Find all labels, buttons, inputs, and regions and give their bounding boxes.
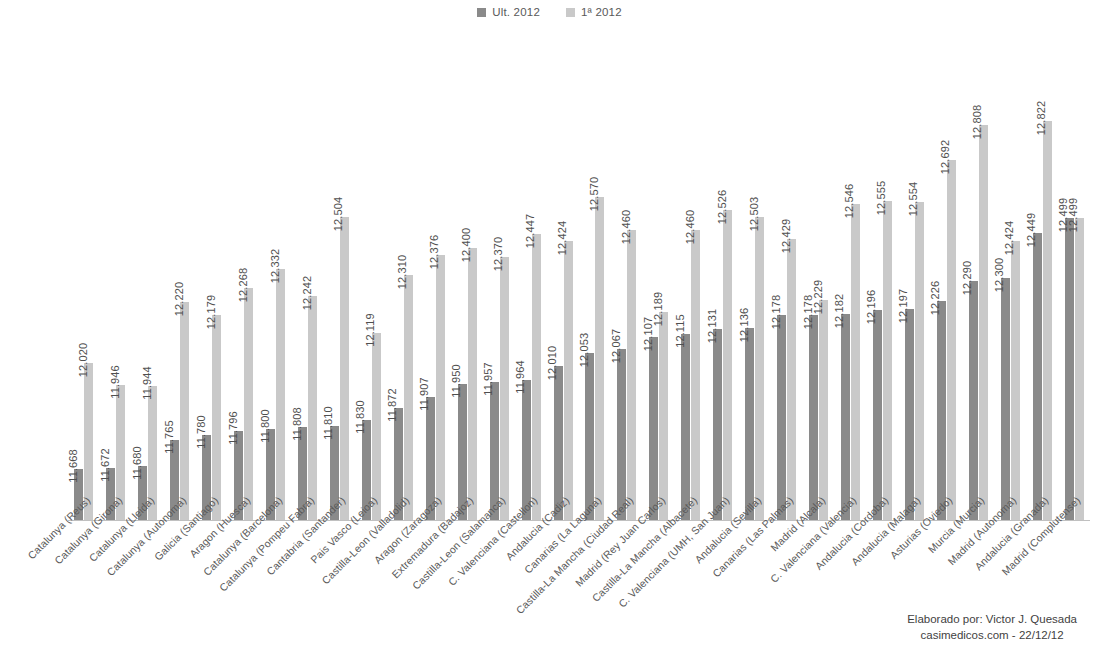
bar[interactable]: 12.808 [979, 125, 988, 520]
bar[interactable]: 12.310 [404, 275, 413, 520]
bar[interactable]: 12.229 [819, 300, 828, 520]
bar-value-label: 12.460 [620, 210, 632, 244]
bar-group: 12.17812.229 [803, 34, 835, 520]
bar-value-label: 12.429 [780, 219, 792, 253]
bar-group: 11.79612.268 [228, 34, 260, 520]
bar[interactable]: 12.370 [500, 257, 509, 520]
bar[interactable]: 12.555 [883, 201, 892, 520]
bar-value-label: 11.765 [163, 420, 175, 453]
bar-value-label: 12.189 [652, 292, 664, 326]
legend-swatch-primera-2012 [566, 8, 575, 17]
bar-group: 12.17812.429 [771, 34, 803, 520]
bar[interactable]: 12.460 [691, 230, 700, 520]
category-tick: Madrid (Complutense) [1058, 492, 1090, 612]
bar-value-label: 11.672 [99, 448, 111, 481]
bar-group: 11.76512.220 [164, 34, 196, 520]
bar[interactable]: 12.499 [1075, 218, 1084, 520]
bar[interactable]: 12.220 [180, 302, 189, 520]
bar-group: 12.22612.692 [930, 34, 962, 520]
bar-value-label: 12.229 [812, 280, 824, 314]
bar-value-label: 12.300 [993, 258, 1005, 292]
bar-value-label: 11.796 [227, 411, 239, 444]
bar-value-label: 12.179 [205, 295, 217, 329]
bar[interactable]: 12.429 [787, 239, 796, 520]
bar-value-label: 11.680 [131, 446, 143, 479]
plot-area: 11.66812.02011.67211.94611.68011.94411.7… [68, 34, 1090, 486]
bar[interactable]: 12.503 [755, 217, 764, 520]
bar-group: 12.19712.554 [898, 34, 930, 520]
bar-value-label: 12.067 [610, 329, 622, 363]
bar-value-label: 12.449 [1025, 213, 1037, 247]
bar[interactable]: 12.504 [340, 217, 349, 520]
bar[interactable]: 12.196 [873, 310, 882, 520]
bar[interactable]: 12.554 [915, 202, 924, 520]
bar-group: 11.95712.370 [483, 34, 515, 520]
chart-legend: Ult. 2012 1ª 2012 [0, 6, 1099, 18]
bar-value-label: 12.555 [875, 181, 887, 215]
bar[interactable]: 12.526 [723, 210, 732, 520]
bar-group: 11.87212.310 [387, 34, 419, 520]
bar[interactable]: 12.197 [905, 309, 914, 520]
bar-group: 11.96412.447 [515, 34, 547, 520]
bar[interactable]: 12.400 [468, 248, 477, 520]
bar-group: 11.67211.946 [100, 34, 132, 520]
bar[interactable]: 12.424 [1011, 241, 1020, 520]
bar-value-label: 11.944 [141, 366, 153, 399]
bar[interactable]: 12.178 [777, 315, 786, 520]
legend-swatch-ult-2012 [477, 8, 486, 17]
bar[interactable]: 12.449 [1033, 233, 1042, 520]
bar-group: 11.68011.944 [132, 34, 164, 520]
bar-group: 11.95012.400 [451, 34, 483, 520]
bar-value-label: 12.808 [971, 105, 983, 139]
bar[interactable]: 12.822 [1043, 121, 1052, 520]
bar-value-label: 12.570 [588, 177, 600, 211]
bar-value-label: 12.242 [301, 276, 313, 310]
bar[interactable]: 12.182 [841, 314, 850, 520]
bar[interactable]: 12.460 [627, 230, 636, 520]
bar-group: 12.49912.499 [1058, 34, 1090, 520]
bar-value-label: 11.907 [418, 377, 430, 410]
legend-item-primera-2012[interactable]: 1ª 2012 [566, 6, 622, 18]
bar[interactable]: 12.242 [308, 296, 317, 520]
bar[interactable]: 12.189 [659, 312, 668, 520]
bar-value-label: 12.268 [237, 268, 249, 302]
credit-site: casimedicos.com - 22/12/12 [907, 627, 1077, 644]
bar-value-label: 12.115 [674, 314, 686, 347]
bar-value-label: 11.830 [354, 401, 366, 434]
bar[interactable]: 12.546 [851, 204, 860, 520]
bar-value-label: 12.499 [1067, 198, 1079, 232]
bar-value-label: 12.226 [929, 281, 941, 315]
bar-value-label: 12.178 [770, 295, 782, 329]
bar-group: 12.10712.189 [643, 34, 675, 520]
bar-value-label: 11.957 [482, 362, 494, 395]
bar[interactable]: 12.268 [244, 288, 253, 520]
bar[interactable]: 12.424 [564, 241, 573, 520]
bar[interactable]: 12.447 [532, 234, 541, 520]
legend-label-primera-2012: 1ª 2012 [581, 6, 622, 18]
bar[interactable]: 12.692 [947, 160, 956, 520]
bar[interactable]: 12.376 [436, 255, 445, 520]
bar[interactable]: 12.570 [595, 197, 604, 520]
bar-value-label: 12.010 [546, 346, 558, 380]
bar[interactable]: 12.178 [809, 315, 818, 520]
bar[interactable]: 12.226 [937, 301, 946, 520]
bar[interactable]: 12.300 [1001, 278, 1010, 520]
bar-value-label: 12.400 [460, 228, 472, 262]
bar-value-label: 11.950 [450, 364, 462, 397]
bar-value-label: 12.554 [907, 181, 919, 215]
bar-value-label: 12.020 [77, 343, 89, 377]
chart-root: Ult. 2012 1ª 2012 11.66812.02011.67211.9… [0, 0, 1099, 654]
legend-item-ult-2012[interactable]: Ult. 2012 [477, 6, 540, 18]
bar-group: 11.80012.332 [260, 34, 292, 520]
bar-value-label: 11.808 [291, 407, 303, 440]
bar[interactable]: 12.290 [969, 281, 978, 520]
bar-groups: 11.66812.02011.67211.94611.68011.94411.7… [68, 34, 1090, 520]
bar[interactable]: 12.332 [276, 269, 285, 520]
bar-value-label: 12.196 [865, 290, 877, 324]
credit-block: Elaborado por: Victor J. Quesada casimed… [907, 611, 1077, 644]
bar[interactable]: 12.179 [212, 315, 221, 520]
bar-group: 12.18212.546 [835, 34, 867, 520]
bar-value-label: 12.182 [833, 294, 845, 328]
bar-group: 11.81012.504 [324, 34, 356, 520]
bar[interactable]: 12.499 [1065, 218, 1074, 520]
